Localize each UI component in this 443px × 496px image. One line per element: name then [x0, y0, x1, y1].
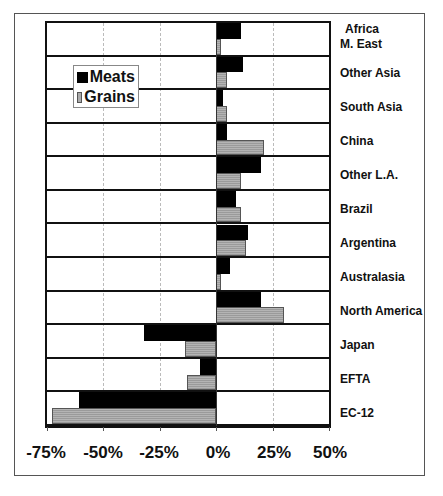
- category-label-other-asia: Other Asia: [340, 66, 400, 81]
- category-row: [47, 258, 329, 292]
- meats-swatch-icon: [77, 72, 88, 83]
- x-tick-label: 25%: [257, 443, 291, 463]
- x-tick-label: -50%: [83, 443, 123, 463]
- grains-bar: [216, 207, 241, 223]
- legend-label-meats: Meats: [90, 68, 135, 86]
- meats-bar: [79, 392, 217, 408]
- x-tick-mark: [273, 427, 274, 431]
- x-tick-mark: [160, 427, 161, 431]
- category-label-north-america: North America: [340, 304, 422, 319]
- meats-bar: [144, 325, 216, 341]
- meats-bar: [216, 258, 230, 274]
- meats-bar: [216, 90, 223, 106]
- grains-bar: [216, 106, 227, 122]
- category-label-brazil: Brazil: [340, 202, 373, 217]
- x-tick-mark: [47, 427, 48, 431]
- category-label-m-east: M. East: [340, 37, 382, 52]
- category-row: [47, 23, 329, 57]
- category-row: [47, 225, 329, 259]
- category-label-africa: Africa: [345, 22, 379, 37]
- meats-bar: [216, 23, 241, 39]
- meats-bar: [216, 157, 261, 173]
- category-label-south-asia: South Asia: [340, 100, 402, 115]
- grains-bar: [216, 307, 284, 323]
- grains-swatch-icon: [77, 92, 82, 103]
- x-tick-mark: [103, 427, 104, 431]
- grains-bar: [216, 173, 241, 189]
- category-label-efta: EFTA: [340, 372, 370, 387]
- legend-label-grains: Grains: [84, 88, 135, 106]
- category-label-australasia: Australasia: [340, 270, 405, 285]
- x-tick-mark: [329, 427, 330, 431]
- meats-bar: [216, 292, 261, 308]
- grains-bar: [187, 375, 216, 391]
- legend-item-meats: Meats: [77, 67, 135, 87]
- legend-item-grains: Grains: [77, 87, 135, 107]
- x-tick-label: 50%: [313, 443, 347, 463]
- category-row: [47, 292, 329, 326]
- category-row: [47, 191, 329, 225]
- grains-bar: [216, 140, 263, 156]
- category-row: [47, 124, 329, 158]
- zero-line: [216, 23, 217, 426]
- meats-bar: [216, 225, 248, 241]
- x-tick-label: 0%: [206, 443, 231, 463]
- meats-bar: [216, 124, 227, 140]
- meats-bar: [216, 57, 243, 73]
- category-label-argentina: Argentina: [340, 236, 396, 251]
- grains-bar: [216, 72, 227, 88]
- meats-bar: [216, 191, 236, 207]
- category-label-other-la: Other L.A.: [340, 168, 398, 183]
- grains-bar: [185, 341, 217, 357]
- x-tick-label: -75%: [26, 443, 66, 463]
- legend: Meats Grains: [73, 65, 139, 108]
- category-row: [47, 157, 329, 191]
- grains-bar: [216, 240, 245, 256]
- meats-bar: [200, 359, 216, 375]
- category-label-ec-12: EC-12: [340, 406, 374, 421]
- x-tick-label: -25%: [139, 443, 179, 463]
- category-label-china: China: [340, 134, 373, 149]
- category-label-japan: Japan: [340, 338, 375, 353]
- x-tick-mark: [216, 427, 217, 431]
- grains-bar: [52, 408, 217, 424]
